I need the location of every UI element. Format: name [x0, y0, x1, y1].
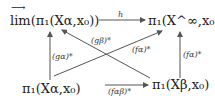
node-top-left: lim(π₁(Xα,x₀)): [10, 14, 99, 28]
label-f-alpha-diag: (fα)*: [132, 45, 151, 54]
node-bottom-right: π₁(Xβ,x₀): [152, 78, 209, 92]
label-h: h: [118, 10, 123, 19]
label-f-alpha-beta: (fαβ)*: [108, 87, 131, 96]
label-g-beta: (gβ)*: [91, 36, 111, 45]
node-bottom-left: π₁(Xα,x₀): [22, 82, 81, 96]
label-f-alpha-right: (fα)*: [183, 50, 202, 59]
node-top-right: π₁(X^∞,x₀): [148, 14, 215, 28]
label-g-alpha: (gα)*: [52, 52, 73, 61]
